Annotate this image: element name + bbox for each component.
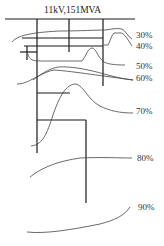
contour-labels: 30% 40% 50% 60% 70% 80% 90% (136, 30, 155, 212)
contour-80 (30, 158, 132, 177)
bus-title: 11kV,151MVA (44, 5, 101, 15)
contour-40 (28, 48, 125, 65)
label-30: 30% (136, 30, 153, 40)
contour-30 (12, 29, 132, 42)
label-90: 90% (138, 202, 155, 212)
label-40: 40% (136, 41, 153, 51)
voltage-contour-diagram: 11kV,151MVA (0, 0, 164, 246)
label-60: 60% (136, 73, 153, 83)
contour-curves (12, 29, 133, 233)
label-70: 70% (136, 106, 153, 116)
contour-90 (27, 207, 130, 233)
label-80: 80% (137, 153, 154, 163)
label-50: 50% (136, 61, 153, 71)
